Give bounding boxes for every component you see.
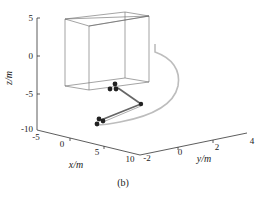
y-axis-label: y/m [196,153,211,164]
z-tick-0: 0 [29,51,34,61]
y-tick-neg2: -2 [143,153,151,163]
x-tick-10: 10 [126,154,136,164]
z-axis-label: z/m [3,71,14,86]
x-tick-neg5: -5 [32,132,40,142]
z-tick-neg5: -5 [26,89,34,99]
x-tick-5: 5 [95,147,100,157]
x-axis: -5 0 5 10 x/m [32,130,140,170]
y-tick-4: 4 [250,136,255,146]
y-tick-0: 0 [178,147,183,157]
y-axis: -2 0 2 4 y/m [140,133,255,164]
trajectory-curve [97,44,179,125]
x-tick-0: 0 [60,139,65,149]
z-tick-5: 5 [29,13,34,23]
figure-caption: (b) [117,177,129,189]
3d-plot: 5 0 -5 -10 z/m -5 0 5 10 x/m -2 0 2 4 y/… [0,0,260,198]
z-axis: 5 0 -5 -10 z/m [3,13,40,134]
y-tick-2: 2 [215,142,220,152]
workspace-box [65,12,149,90]
manipulator-links [101,88,141,122]
x-axis-label: x/m [68,159,83,170]
